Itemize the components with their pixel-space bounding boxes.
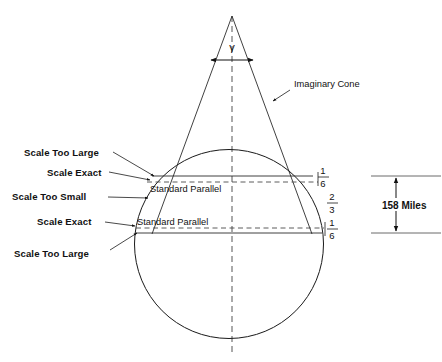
scale-too-large-bottom-label: Scale Too Large xyxy=(14,248,89,259)
band-upper-numerator: 1 xyxy=(320,165,325,176)
band-lower-numerator: 1 xyxy=(329,217,334,228)
band-middle-denominator: 3 xyxy=(329,204,334,215)
standard-parallel-lower-label: Standard Parallel xyxy=(137,217,208,227)
standard-parallel-upper-label: Standard Parallel xyxy=(150,184,221,194)
gamma-symbol-label: γ xyxy=(229,41,235,53)
band-lower-denominator: 6 xyxy=(329,230,334,241)
scale-too-small-label: Scale Too Small xyxy=(12,191,86,202)
band-upper-denominator: 6 xyxy=(320,178,325,189)
scale-bar-label: 158 Miles xyxy=(382,200,427,211)
scale-exact-top-label: Scale Exact xyxy=(47,167,102,178)
imaginary-cone-label: Imaginary Cone xyxy=(294,79,360,89)
canvas-background xyxy=(0,0,442,362)
scale-too-large-top-label: Scale Too Large xyxy=(24,147,99,158)
band-middle-numerator: 2 xyxy=(329,191,334,202)
conic-projection-diagram: γ 1 6 2 3 1 6 Standard Parallel Standard… xyxy=(0,0,442,362)
scale-exact-bottom-label: Scale Exact xyxy=(37,216,92,227)
